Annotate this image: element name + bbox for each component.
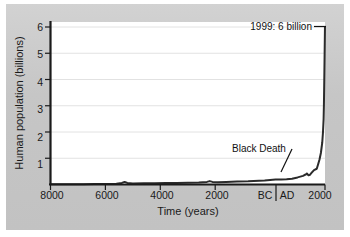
x-tick-label-2000ad: 2000 bbox=[308, 189, 332, 201]
y-tick-label-1: 1 bbox=[37, 158, 43, 170]
x-tick-label-4000bc: 4000 bbox=[150, 189, 174, 201]
x-tick-label-2000bc: 2000 bbox=[205, 189, 229, 201]
annotation-black-death-label: Black Death bbox=[232, 143, 286, 154]
x-tick-label-bc: BC bbox=[258, 189, 273, 201]
plot-area-background bbox=[50, 22, 325, 184]
y-tick-label-2: 2 bbox=[37, 131, 43, 143]
x-axis-title: Time (years) bbox=[157, 205, 218, 217]
y-tick-label-3: 3 bbox=[37, 103, 43, 115]
x-tick-label-ad: AD bbox=[280, 189, 295, 201]
x-tick-label-8000bc: 8000 bbox=[40, 189, 64, 201]
y-tick-label-5: 5 bbox=[37, 48, 43, 60]
y-tick-label-4: 4 bbox=[37, 76, 43, 88]
y-tick-label-6: 6 bbox=[37, 21, 43, 33]
figure-container: 6 5 4 3 2 1 8000 6000 4000 2000 BC AD 20… bbox=[0, 0, 350, 237]
x-tick-label-6000bc: 6000 bbox=[95, 189, 119, 201]
population-line-chart: 6 5 4 3 2 1 8000 6000 4000 2000 BC AD 20… bbox=[0, 0, 350, 237]
y-axis-title: Human population (billions) bbox=[13, 36, 25, 169]
annotation-1999-label: 1999: 6 billion bbox=[250, 21, 312, 32]
